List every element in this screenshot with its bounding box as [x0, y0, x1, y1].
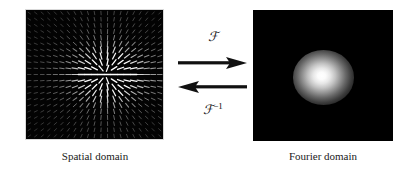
- transform-arrows-group: ℱ ℱ−1: [176, 28, 250, 124]
- forward-transform-symbol: ℱ: [208, 29, 218, 44]
- inverse-transform-symbol: ℱ: [203, 102, 213, 117]
- vector-field-canvas: [26, 10, 163, 139]
- spatial-domain-image: [25, 9, 164, 140]
- fourier-domain-image: [253, 10, 393, 141]
- forward-transform-arrow-icon: [178, 56, 247, 70]
- inverse-transform-label: ℱ−1: [176, 102, 250, 116]
- forward-transform-label: ℱ: [176, 30, 250, 43]
- arrow-right-icon: [178, 56, 247, 70]
- arrow-left-icon: [178, 80, 247, 94]
- spectrum-peak-blob: [293, 50, 355, 105]
- fourier-domain-caption: Fourier domain: [243, 150, 403, 163]
- inverse-transform-exponent: −1: [213, 101, 223, 111]
- inverse-transform-arrow-icon: [178, 80, 247, 94]
- figure-root: Spatial domain ℱ ℱ−1 Fourier domain: [0, 0, 414, 170]
- spatial-domain-caption: Spatial domain: [15, 150, 175, 163]
